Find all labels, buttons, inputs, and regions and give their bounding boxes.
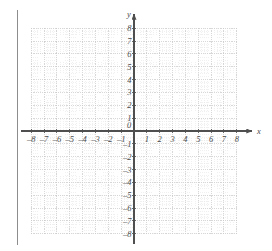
y-tick-label-neg6: –6 — [123, 204, 132, 213]
y-tick-label-4: 4 — [127, 75, 131, 84]
x-tick-label-neg6: –6 — [53, 135, 62, 144]
y-tick-label-6: 6 — [127, 50, 131, 59]
x-tick-label-neg5: –5 — [66, 135, 75, 144]
x-tick-label-4: 4 — [183, 135, 187, 144]
x-tick-label-2: 2 — [158, 135, 162, 144]
y-tick-label-neg5: –5 — [123, 191, 132, 200]
y-tick-label-5: 5 — [127, 63, 131, 72]
x-tick-label-neg7: –7 — [40, 135, 49, 144]
y-tick-label-neg3: –3 — [123, 165, 132, 174]
x-tick-label-neg2: –2 — [104, 135, 113, 144]
x-tick-label-neg4: –4 — [78, 135, 87, 144]
y-tick-label-8: 8 — [127, 24, 131, 33]
x-tick-label-7: 7 — [222, 135, 226, 144]
x-tick-label-3: 3 — [170, 135, 174, 144]
y-tick-label-7: 7 — [127, 37, 131, 46]
y-tick-label-3: 3 — [127, 88, 131, 97]
y-tick-label-neg2: –2 — [123, 152, 132, 161]
x-tick-label-6: 6 — [209, 135, 213, 144]
y-tick-label-neg8: –8 — [123, 230, 132, 239]
axis-lines — [21, 14, 252, 244]
y-tick-label-neg1: –1 — [123, 140, 132, 149]
x-tick-label-8: 8 — [235, 135, 239, 144]
y-axis-label: y — [127, 10, 131, 19]
x-tick-label-neg8: –8 — [27, 135, 36, 144]
y-tick-label-1: 1 — [127, 114, 131, 123]
y-tick-label-neg7: –7 — [123, 217, 132, 226]
y-tick-label-2: 2 — [127, 101, 131, 110]
x-tick-label-neg3: –3 — [91, 135, 100, 144]
x-tick-label-1: 1 — [145, 135, 149, 144]
x-axis-label: x — [257, 127, 261, 136]
grid-canvas — [0, 0, 272, 251]
coordinate-grid-figure: –8–7–6–5–4–3–2–1012345678 –8–7–6–5–4–3–2… — [0, 0, 272, 251]
y-tick-label-neg4: –4 — [123, 178, 132, 187]
x-tick-label-5: 5 — [196, 135, 200, 144]
